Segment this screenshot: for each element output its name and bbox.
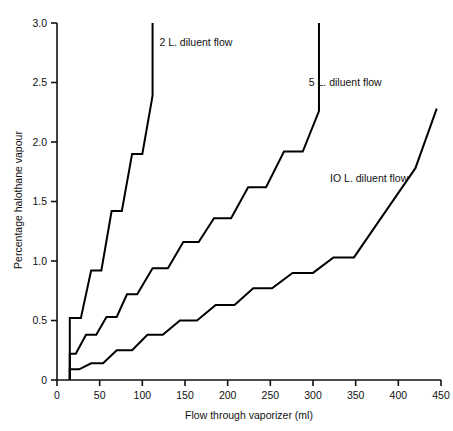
x-tick-label: 250 [262, 389, 280, 401]
chart-background [0, 0, 453, 431]
staircase-chart: 00.51.01.52.02.53.0 05010015020025030035… [0, 0, 453, 431]
y-tick-label: 1.5 [32, 195, 47, 207]
x-tick-label: 350 [347, 389, 365, 401]
x-tick-label: 0 [54, 389, 60, 401]
series-annotation-3: IO L. diluent flow [330, 172, 409, 184]
x-axis-title: Flow through vaporizer (ml) [185, 409, 313, 421]
x-tick-label: 150 [176, 389, 194, 401]
y-tick-label: 3.0 [32, 17, 47, 29]
x-tick-label: 100 [134, 389, 152, 401]
y-tick-label: 0 [41, 374, 47, 386]
series-annotation-1: 2 L. diluent flow [159, 36, 232, 48]
x-tick-label: 450 [432, 389, 450, 401]
x-tick-label: 50 [94, 389, 106, 401]
x-tick-label: 400 [390, 389, 408, 401]
x-tick-label: 200 [219, 389, 237, 401]
y-tick-label: 2.5 [32, 76, 47, 88]
chart-figure: 00.51.01.52.02.53.0 05010015020025030035… [0, 0, 453, 431]
y-tick-label: 0.5 [32, 314, 47, 326]
y-tick-label: 1.0 [32, 255, 47, 267]
x-tick-label: 300 [304, 389, 322, 401]
y-axis-title: Percentage halothane vapour [12, 131, 24, 269]
y-tick-label: 2.0 [32, 136, 47, 148]
series-annotation-2: 5 L. diluent flow [309, 76, 382, 88]
